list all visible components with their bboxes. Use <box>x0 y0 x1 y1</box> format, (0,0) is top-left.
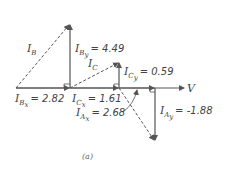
phasor-diagram: IB IBy= 4.49 IC ICy= 0.59 V IBx= 2.82 IC… <box>0 0 225 177</box>
label-ic: IC <box>87 57 98 72</box>
ib-vector <box>16 25 69 88</box>
label-iay: IAy= -1.88 <box>159 104 213 121</box>
label-iby: IBy= 4.49 <box>74 42 124 59</box>
label-v: V <box>187 82 196 95</box>
label-ibx: IBx= 2.82 <box>14 92 64 109</box>
figure-caption: (a) <box>82 152 93 161</box>
label-icy: ICy= 0.59 <box>123 65 174 82</box>
label-ib: IB <box>26 42 37 57</box>
